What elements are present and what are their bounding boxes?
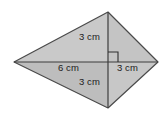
- dimension-label-right: 3 cm: [117, 62, 138, 73]
- dimension-label-bottom: 3 cm: [79, 76, 100, 87]
- dimension-label-left: 6 cm: [58, 62, 79, 73]
- geometry-figure: 3 cm 3 cm 6 cm 3 cm: [0, 0, 163, 113]
- kite-diagram-svg: [0, 0, 163, 113]
- dimension-label-top: 3 cm: [79, 31, 100, 42]
